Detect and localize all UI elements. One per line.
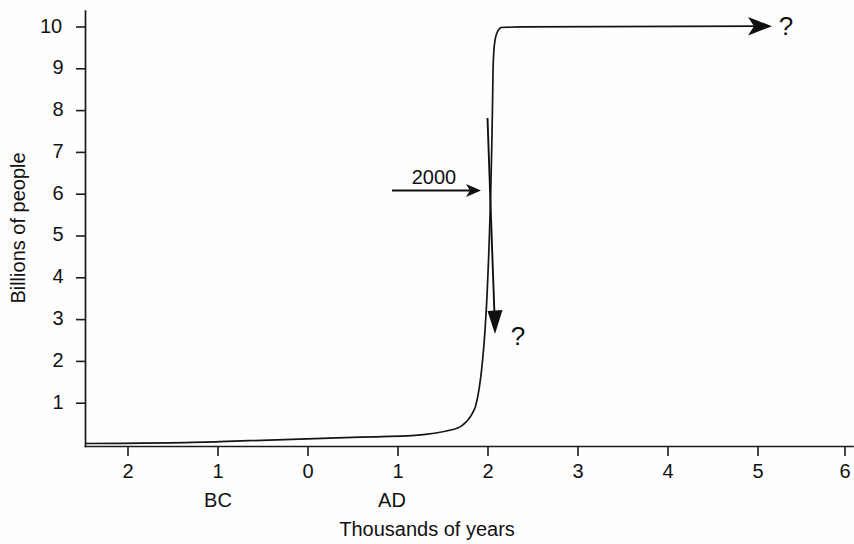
era-labels: BC AD: [204, 489, 406, 511]
x-axis-title: Thousands of years: [339, 518, 515, 540]
decline-arrow-group: ?: [488, 118, 526, 351]
y-tick-label-10: 10: [40, 15, 62, 37]
y-tick-label-4: 4: [52, 265, 63, 287]
x-tick-label-4: 1: [392, 460, 403, 482]
x-tick-label-5: 2: [482, 460, 493, 482]
x-axis-ticks: [128, 446, 845, 456]
x-tick-label-2: 1: [212, 460, 223, 482]
y-tick-label-6: 6: [52, 182, 63, 204]
x-tick-label-9: 6: [839, 460, 850, 482]
x-tick-label-1: 2: [122, 460, 133, 482]
axes-group: [86, 11, 854, 447]
y-tick-label-3: 3: [52, 307, 63, 329]
continuation-question-mark: ?: [779, 11, 793, 41]
population-curve-group: [86, 26, 762, 443]
x-tick-label-3: 0: [302, 460, 313, 482]
x-tick-label-6: 3: [572, 460, 583, 482]
decline-question-mark: ?: [511, 321, 525, 351]
y-tick-label-5: 5: [52, 223, 63, 245]
era-label-bc: BC: [204, 489, 232, 511]
x-axis-tick-labels: 2 1 0 1 2 3 4 5 6: [122, 460, 850, 482]
world-population-line: [86, 26, 762, 443]
y-axis-ticks: [76, 27, 86, 403]
y-tick-label-1: 1: [52, 391, 63, 413]
era-label-ad: AD: [378, 489, 406, 511]
decline-arrow-head-icon: [488, 310, 503, 334]
y-tick-label-8: 8: [52, 98, 63, 120]
year-2000-annotation-group: 2000: [392, 166, 481, 197]
continuation-arrow-group: ?: [748, 11, 793, 41]
y-axis-tick-labels: 1 2 3 4 5 6 7 8 9 10: [40, 15, 64, 413]
chart-canvas: 1 2 3 4 5 6 7 8 9 10 2 1 0: [0, 0, 854, 544]
y-axis-title: Billions of people: [7, 152, 29, 303]
year-2000-label: 2000: [412, 166, 457, 188]
population-chart-figure: 1 2 3 4 5 6 7 8 9 10 2 1 0: [0, 0, 854, 544]
x-tick-label-8: 5: [752, 460, 763, 482]
y-tick-label-2: 2: [52, 349, 63, 371]
y-tick-label-7: 7: [52, 140, 63, 162]
x-tick-label-7: 4: [662, 460, 673, 482]
y-tick-label-9: 9: [52, 56, 63, 78]
